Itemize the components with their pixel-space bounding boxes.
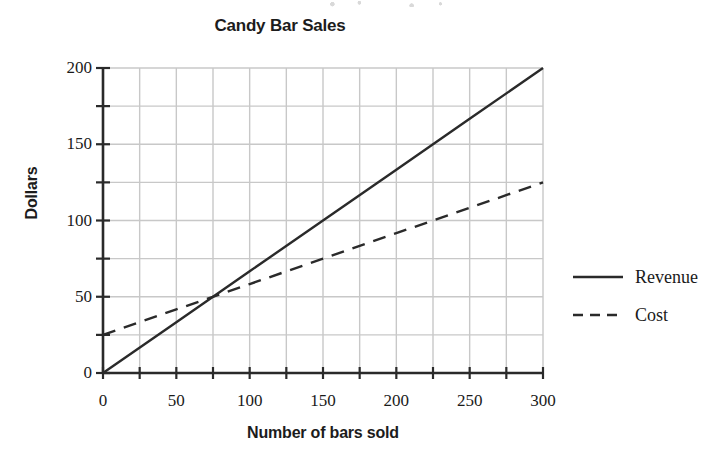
legend-label: Revenue xyxy=(635,267,698,288)
x-tick-label: 100 xyxy=(237,391,263,411)
legend-label: Cost xyxy=(635,305,668,326)
legend-item-cost[interactable]: Cost xyxy=(572,296,698,334)
x-axis-title: Number of bars sold xyxy=(103,424,543,442)
chart-page: Candy Bar Sales 050100150200 05010015020… xyxy=(0,0,727,468)
x-tick-label: 300 xyxy=(530,391,556,411)
y-tick-label: 200 xyxy=(40,58,92,78)
x-tick-label: 200 xyxy=(384,391,410,411)
legend-swatch-dashed-line-icon xyxy=(572,309,624,321)
x-tick-label: 50 xyxy=(168,391,185,411)
x-tick-label: 0 xyxy=(99,391,108,411)
chart-plot-area xyxy=(0,0,727,468)
legend-item-revenue[interactable]: Revenue xyxy=(572,258,698,296)
y-tick-label: 0 xyxy=(40,363,92,383)
x-tick-label: 150 xyxy=(310,391,336,411)
y-tick-label: 100 xyxy=(40,211,92,231)
legend-swatch-solid-line-icon xyxy=(572,271,624,283)
y-tick-label: 150 xyxy=(40,134,92,154)
x-tick-label: 250 xyxy=(457,391,483,411)
y-axis-title: Dollars xyxy=(23,145,41,241)
y-tick-label: 50 xyxy=(40,287,92,307)
chart-legend: RevenueCost xyxy=(572,258,698,334)
